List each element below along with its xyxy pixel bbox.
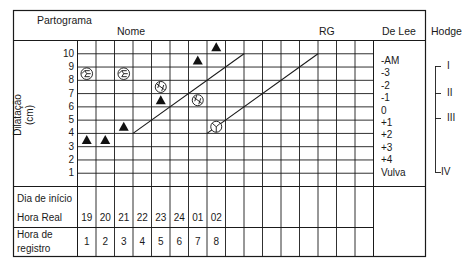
hodge-plane: IV — [441, 167, 450, 177]
fetal-head-icon — [118, 68, 130, 80]
y-tick-label: 3 — [68, 142, 74, 152]
y-tick-label: 10 — [63, 49, 74, 59]
delee-station: -AM — [381, 56, 399, 66]
delee-station: +4 — [381, 155, 392, 165]
delee-station: +3 — [381, 143, 392, 153]
dilation-triangle-icon — [211, 42, 221, 51]
delee-station: +2 — [381, 130, 392, 140]
record-hour-cell: 8 — [213, 237, 219, 247]
hodge-label: Hodge — [431, 26, 462, 37]
dilation-triangle-icon — [82, 135, 92, 144]
real-hour-cell: 21 — [118, 213, 129, 223]
record-hour-cell: 1 — [84, 237, 90, 247]
delee-label: De Lee — [382, 26, 416, 37]
delee-station: -2 — [381, 81, 390, 91]
fetal-head-icon — [81, 68, 93, 80]
real-hour-cell: 20 — [100, 213, 111, 223]
record-hour-cell: 2 — [102, 237, 108, 247]
record-hour-cell: 5 — [158, 237, 164, 247]
delee-station: -1 — [381, 93, 390, 103]
delee-station: -3 — [381, 68, 390, 78]
rg-label: RG — [319, 26, 335, 37]
fetal-head-icon — [211, 121, 222, 132]
record-hour-label-line1: Hora de — [17, 230, 53, 240]
y-tick-label: 4 — [68, 128, 74, 138]
dilation-triangle-icon — [193, 55, 203, 64]
fetal-head-icon — [155, 81, 166, 92]
hodge-plane: III — [447, 113, 455, 123]
dilation-triangle-icon — [119, 122, 129, 131]
y-tick-label: 6 — [68, 102, 74, 112]
record-hour-cell: 7 — [195, 237, 201, 247]
dilation-triangle-icon — [100, 135, 110, 144]
record-hour-cell: 4 — [139, 237, 145, 247]
start-day-label: Dia de início — [17, 194, 72, 204]
real-hour-cell: 01 — [192, 213, 203, 223]
record-hour-cell: 3 — [121, 237, 127, 247]
real-hour-cell: 24 — [174, 213, 185, 223]
y-tick-label: 1 — [68, 168, 74, 178]
real-hour-cell: 23 — [155, 213, 166, 223]
y-axis-label-line1: Dilatação — [12, 94, 24, 136]
real-hour-cell: 19 — [81, 213, 92, 223]
record-hour-cell: 6 — [176, 237, 182, 247]
fetal-head-icon — [192, 95, 203, 106]
y-tick-label: 7 — [68, 89, 74, 99]
y-tick-label: 9 — [68, 62, 74, 72]
y-tick-label: 8 — [68, 75, 74, 85]
delee-station: 0 — [381, 106, 387, 116]
y-tick-label: 2 — [68, 155, 74, 165]
record-hour-label-line2: registro — [17, 244, 50, 254]
delee-station: +1 — [381, 118, 392, 128]
real-hour-label: Hora Real — [17, 213, 62, 223]
hodge-plane: I — [447, 61, 450, 71]
y-tick-label: 5 — [68, 115, 74, 125]
hodge-bracket — [435, 66, 441, 173]
chart-title: Partograma — [37, 15, 92, 26]
delee-station: Vulva — [381, 168, 406, 178]
y-axis-label-line2: (cm) — [24, 94, 36, 136]
hodge-plane: II — [447, 88, 453, 98]
name-label: Nome — [117, 26, 145, 37]
dilation-triangle-icon — [156, 95, 166, 104]
real-hour-cell: 22 — [137, 213, 148, 223]
real-hour-cell: 02 — [211, 213, 222, 223]
